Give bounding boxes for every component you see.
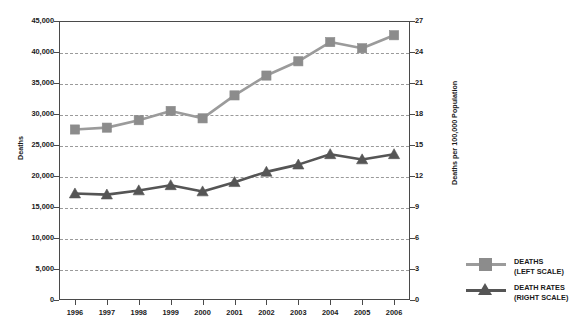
y-tick-label-right: 0 <box>415 295 437 304</box>
y-tick-label-left: 15,000 <box>0 202 54 211</box>
y-tick-mark-right <box>410 176 415 177</box>
legend-item-death-rates[interactable]: DEATH RATES (RIGHT SCALE) <box>466 284 569 310</box>
gridline <box>60 239 409 240</box>
x-tick-label: 2001 <box>220 308 250 317</box>
dual-axis-line-chart: 05,00010,00015,00020,00025,00030,00035,0… <box>0 0 569 322</box>
y-tick-mark-right <box>410 145 415 146</box>
x-tick-label: 1998 <box>124 308 154 317</box>
x-tick-mark <box>298 300 299 305</box>
x-tick-label: 1996 <box>60 308 90 317</box>
y-tick-label-left: 45,000 <box>0 16 54 25</box>
x-tick-label: 2005 <box>347 308 377 317</box>
y-tick-label-right: 27 <box>415 16 437 25</box>
y-axis-right-title: Deaths per 100,000 Population <box>450 81 459 185</box>
x-tick-label: 1997 <box>92 308 122 317</box>
y-axis-left-title: Deaths <box>16 136 25 160</box>
y-tick-mark-right <box>410 114 415 115</box>
gridline <box>60 146 409 147</box>
y-tick-mark-right <box>410 207 415 208</box>
y-tick-mark-left <box>54 52 59 53</box>
x-tick-mark <box>362 300 363 305</box>
y-tick-mark-left <box>54 145 59 146</box>
x-tick-mark <box>107 300 108 305</box>
y-tick-label-left: 30,000 <box>0 109 54 118</box>
gridline <box>60 208 409 209</box>
gridline <box>60 270 409 271</box>
x-tick-label: 2002 <box>251 308 281 317</box>
y-tick-mark-right <box>410 238 415 239</box>
y-tick-label-right: 15 <box>415 140 437 149</box>
y-tick-mark-left <box>54 300 59 301</box>
x-tick-mark <box>75 300 76 305</box>
y-tick-mark-left <box>54 269 59 270</box>
x-tick-mark <box>235 300 236 305</box>
x-tick-mark <box>266 300 267 305</box>
x-tick-mark <box>203 300 204 305</box>
y-tick-label-left: 0 <box>0 295 54 304</box>
x-tick-label: 1999 <box>156 308 186 317</box>
legend-label-death-rates: DEATH RATES (RIGHT SCALE) <box>514 283 568 302</box>
gridline <box>60 84 409 85</box>
y-tick-label-left: 40,000 <box>0 47 54 56</box>
x-tick-mark <box>171 300 172 305</box>
y-tick-mark-right <box>410 83 415 84</box>
y-tick-mark-left <box>54 114 59 115</box>
square-marker-icon <box>479 258 492 271</box>
x-tick-mark <box>139 300 140 305</box>
x-tick-mark <box>394 300 395 305</box>
x-tick-label: 2006 <box>379 308 409 317</box>
x-tick-label: 2000 <box>188 308 218 317</box>
y-tick-mark-right <box>410 52 415 53</box>
y-tick-mark-right <box>410 21 415 22</box>
y-tick-mark-left <box>54 176 59 177</box>
y-tick-label-right: 24 <box>415 47 437 56</box>
y-tick-label-right: 18 <box>415 109 437 118</box>
y-tick-label-left: 10,000 <box>0 233 54 242</box>
y-tick-label-right: 6 <box>415 233 437 242</box>
legend-label-deaths: DEATHS (LEFT SCALE) <box>514 257 564 276</box>
x-tick-label: 2004 <box>315 308 345 317</box>
y-tick-mark-left <box>54 83 59 84</box>
y-tick-label-left: 20,000 <box>0 171 54 180</box>
gridline <box>60 177 409 178</box>
y-tick-label-left: 25,000 <box>0 140 54 149</box>
y-tick-label-right: 12 <box>415 171 437 180</box>
legend: DEATHS (LEFT SCALE) DEATH RATES (RIGHT S… <box>466 258 569 310</box>
plot-area <box>59 21 410 300</box>
y-tick-mark-left <box>54 207 59 208</box>
y-tick-mark-right <box>410 269 415 270</box>
y-tick-label-right: 9 <box>415 202 437 211</box>
x-tick-mark <box>330 300 331 305</box>
y-tick-label-left: 5,000 <box>0 264 54 273</box>
legend-item-deaths[interactable]: DEATHS (LEFT SCALE) <box>466 258 569 284</box>
gridline <box>60 53 409 54</box>
y-tick-label-right: 21 <box>415 78 437 87</box>
y-tick-mark-right <box>410 300 415 301</box>
x-tick-label: 2003 <box>283 308 313 317</box>
y-tick-mark-left <box>54 238 59 239</box>
y-tick-mark-left <box>54 21 59 22</box>
gridline <box>60 115 409 116</box>
y-tick-label-right: 3 <box>415 264 437 273</box>
y-tick-label-left: 35,000 <box>0 78 54 87</box>
triangle-marker-icon <box>478 283 492 295</box>
